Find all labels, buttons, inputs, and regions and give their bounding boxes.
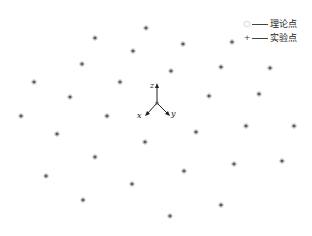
x-axis-label: x [137,111,142,120]
legend-theory-label: 理论点 [270,17,297,31]
theory-points [19,26,297,219]
legend-item-theory: ○ 理论点 [243,17,297,31]
circle-marker-icon: ○ [243,17,251,31]
z-axis-label: z [149,81,155,90]
coordinate-axes-glyph: z x y [137,81,176,120]
experiment-points [19,26,295,217]
plus-marker-icon: + [243,31,251,45]
legend-line [252,38,268,39]
y-axis-label: y [170,109,176,118]
legend: ○ 理论点 + 实验点 [243,17,297,45]
legend-line [252,24,268,25]
legend-experiment-label: 实验点 [270,31,297,45]
legend-item-experiment: + 实验点 [243,31,297,45]
